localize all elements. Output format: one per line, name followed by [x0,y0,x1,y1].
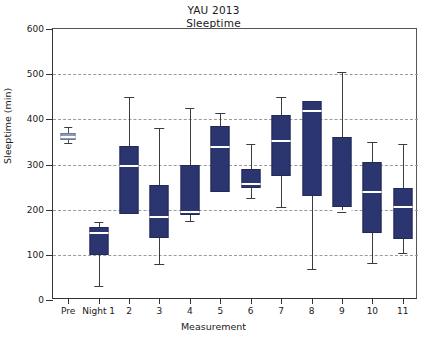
boxplot-8 [296,29,326,300]
y-axis-tick [46,255,53,256]
box [332,137,351,207]
whisker-upper [190,108,191,165]
y-axis-tick [46,300,53,301]
median-line [180,211,199,213]
y-axis-tick [46,210,53,211]
boxplot-night-1 [83,29,113,300]
whisker-lower [403,239,404,253]
median-line [393,206,412,208]
whisker-upper [281,97,282,115]
whisker-lower [251,188,252,198]
box [180,165,199,215]
whisker-lower [372,233,373,263]
whisker-upper [403,144,404,188]
box [150,185,169,238]
whisker-cap-lower [94,286,104,287]
y-axis-tick-label: 600 [27,24,44,34]
plot-area: 0100200300400500600PreNight 123456789101… [52,28,417,299]
x-axis-tick-label: 11 [397,306,408,316]
whisker-lower [281,176,282,208]
y-axis-tick-label: 500 [27,69,44,79]
whisker-upper [251,144,252,169]
x-axis-tick-label: 5 [217,306,223,316]
median-line [332,210,351,212]
chart-title-line-1: YAU 2013 [187,4,239,16]
boxplot-5 [205,29,235,300]
y-axis-tick [46,74,53,75]
boxplot-11 [388,29,418,300]
x-axis-tick-label: Pre [61,306,75,316]
whisker-cap-upper [337,72,347,73]
median-line [241,183,260,185]
whisker-lower [159,238,160,264]
box [272,115,291,176]
whisker-cap-upper [368,142,378,143]
x-axis-tick-label: Night 1 [82,306,115,316]
median-line [272,140,291,142]
median-line [150,216,169,218]
whisker-cap-upper [216,113,226,114]
boxplot-9 [327,29,357,300]
whisker-upper [342,72,343,137]
whisker-cap-upper [276,97,286,98]
y-axis-tick-label: 100 [27,250,44,260]
whisker-lower [312,196,313,269]
whisker-cap-lower [276,207,286,208]
box [89,227,108,255]
x-axis-tick-label: 8 [309,306,315,316]
boxplot-2 [114,29,144,300]
whisker-cap-lower [185,221,195,222]
y-axis-tick-label: 300 [27,160,44,170]
boxplot-6 [236,29,266,300]
x-axis-tick-label: 7 [278,306,284,316]
y-axis-tick-label: 200 [27,205,44,215]
whisker-cap-upper [246,144,256,145]
y-axis-title: Sleeptime (min) [2,88,13,164]
boxplot-3 [144,29,174,300]
whisker-cap-upper [124,97,134,98]
whisker-cap-lower [368,263,378,264]
whisker-cap-upper [64,127,72,128]
boxplot-pre [53,29,83,300]
box [393,188,412,239]
whisker-cap-lower [398,253,408,254]
whisker-cap-lower [337,212,347,213]
whisker-cap-lower [246,198,256,199]
whisker-cap-lower [64,143,72,144]
y-axis-tick-label: 400 [27,114,44,124]
y-axis-tick-label: 0 [38,295,44,305]
x-axis-tick-label: 10 [367,306,378,316]
whisker-upper [372,142,373,162]
y-axis-tick [46,119,53,120]
whisker-cap-upper [155,128,165,129]
median-line [302,110,321,112]
x-axis-tick-label: 2 [126,306,132,316]
whisker-cap-lower [307,269,317,270]
whisker-lower [99,255,100,286]
median-line [61,136,76,138]
whisker-upper [159,128,160,184]
median-line [363,191,382,193]
boxplot-4 [175,29,205,300]
chart-figure: YAU 2013 Sleeptime Sleeptime (min) 01002… [0,0,427,337]
median-line [211,146,230,148]
boxplot-10 [357,29,387,300]
median-line [120,165,139,167]
whisker-upper [220,113,221,127]
x-axis-tick-label: 9 [339,306,345,316]
median-line [89,232,108,234]
whisker-upper [129,97,130,147]
chart-title: YAU 2013 Sleeptime [0,4,427,30]
x-axis-tick-label: 6 [248,306,254,316]
x-axis-title: Measurement [0,321,427,332]
whisker-cap-upper [94,222,104,223]
x-axis-tick-label: 4 [187,306,193,316]
boxplot-7 [266,29,296,300]
box [120,146,139,214]
x-axis-tick-label: 3 [157,306,163,316]
y-axis-tick [46,29,53,30]
y-axis-tick [46,165,53,166]
whisker-cap-upper [398,144,408,145]
box [211,126,230,192]
box [302,101,321,196]
